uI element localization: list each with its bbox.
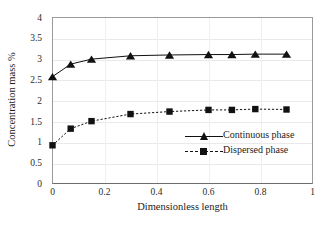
data-point-marker (283, 106, 289, 112)
legend-key-square-icon (185, 145, 223, 158)
data-point-marker (88, 118, 94, 124)
x-axis-title: Dimensionless length (52, 201, 313, 212)
data-point-marker (166, 108, 172, 114)
legend-item-dispersed-phase: Dispersed phase (185, 144, 294, 158)
data-point-marker (229, 107, 235, 113)
legend-label-continuous-phase: Continuous phase (223, 129, 294, 141)
chart-figure: 00.511.522.533.54 00.20.40.60.81 Concent… (0, 0, 330, 229)
data-point-marker (252, 106, 258, 112)
data-point-marker (66, 60, 75, 67)
series-layer (0, 0, 330, 229)
data-point-marker (127, 111, 133, 117)
legend-label-dispersed-phase: Dispersed phase (223, 144, 288, 156)
legend-key-triangle-icon (185, 130, 223, 143)
y-axis-title-text: Concentration mass % (6, 16, 17, 183)
legend-item-continuous-phase: Continuous phase (185, 129, 294, 143)
data-point-marker (49, 142, 55, 148)
y-axis-title: Concentration mass % (4, 17, 18, 184)
data-point-marker (68, 125, 74, 131)
data-point-marker (205, 107, 211, 113)
chart-legend: Continuous phase Dispersed phase (185, 129, 294, 159)
x-axis-title-text: Dimensionless length (137, 201, 228, 212)
